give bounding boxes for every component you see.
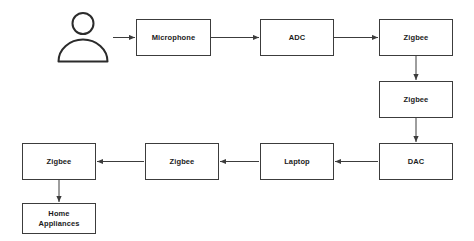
node-zigbee-3[interactable]: Zigbee [145, 143, 219, 180]
node-label-dac: DAC [408, 157, 425, 167]
node-zigbee-1[interactable]: Zigbee [379, 19, 453, 56]
node-label-zigbee-1: Zigbee [404, 33, 429, 43]
node-label-zigbee-3: Zigbee [170, 157, 195, 167]
node-label-laptop: Laptop [284, 157, 310, 167]
node-label-zigbee-4: Zigbee [47, 157, 72, 167]
node-label-home-appliances: Home Appliances [38, 209, 79, 228]
node-zigbee-2[interactable]: Zigbee [379, 81, 453, 118]
node-dac[interactable]: DAC [379, 143, 453, 180]
node-label-zigbee-2: Zigbee [404, 95, 429, 105]
node-adc[interactable]: ADC [260, 19, 334, 56]
node-label-adc: ADC [289, 33, 306, 43]
node-label-microphone: Microphone [152, 33, 196, 43]
node-microphone[interactable]: Microphone [136, 19, 211, 56]
block-diagram: Microphone ADC Zigbee Zigbee DAC Laptop … [0, 0, 474, 241]
node-zigbee-4[interactable]: Zigbee [22, 143, 96, 180]
node-home-appliances[interactable]: Home Appliances [22, 203, 96, 234]
node-laptop[interactable]: Laptop [260, 143, 334, 180]
